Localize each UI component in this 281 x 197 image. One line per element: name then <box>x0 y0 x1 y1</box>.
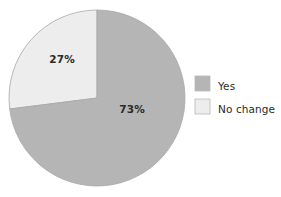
pie-chart: 27% 73% Yes No change <box>0 0 281 197</box>
legend-label-yes: Yes <box>217 80 235 92</box>
legend: Yes No change <box>195 76 275 115</box>
pie-slice-label-no-change: 27% <box>49 53 75 65</box>
legend-swatch-no-change <box>195 99 210 114</box>
pie-slice-label-yes: 73% <box>119 103 145 115</box>
legend-item-no-change[interactable]: No change <box>195 99 275 115</box>
legend-swatch-yes <box>195 76 210 91</box>
legend-item-yes[interactable]: Yes <box>195 76 235 92</box>
chart-figure: 27% 73% Yes No change <box>0 0 281 197</box>
legend-label-no-change: No change <box>218 103 275 115</box>
